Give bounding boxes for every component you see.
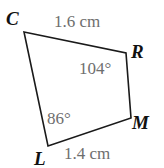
side-length-label-lm: 1.4 cm: [64, 145, 110, 162]
angle-label-l: 86°: [47, 110, 71, 127]
vertex-label-c: C: [6, 9, 19, 28]
side-length-label-cr: 1.6 cm: [54, 13, 100, 30]
quadrilateral-shape: [24, 32, 131, 146]
vertex-label-r: R: [131, 42, 144, 61]
vertex-label-m: M: [132, 113, 149, 132]
vertex-label-l: L: [34, 149, 46, 168]
geometry-figure-quadrilateral: C R M L 1.6 cm 1.4 cm 104° 86°: [0, 0, 164, 168]
angle-label-r: 104°: [79, 60, 111, 77]
